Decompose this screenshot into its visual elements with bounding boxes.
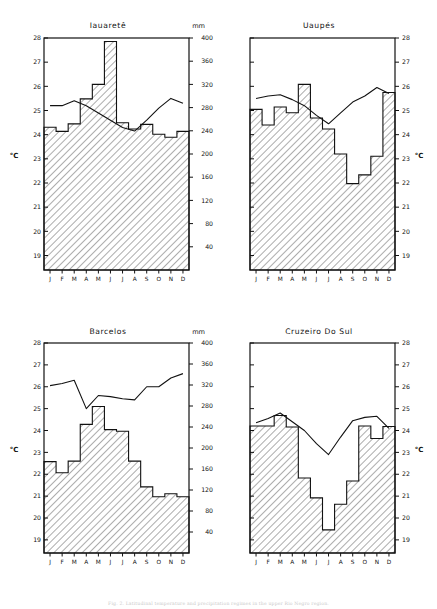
temp-axis-tick-label-right: 25 xyxy=(402,405,410,412)
chart-panel-iauarete: 1920212223242526272840801201602002402803… xyxy=(0,6,219,306)
precip-axis-tick-label: 80 xyxy=(205,507,213,514)
month-label: J xyxy=(48,559,51,566)
temp-axis-tick-label: 23 xyxy=(33,155,41,162)
month-label: M xyxy=(302,559,307,565)
temp-axis-tick-label-right: 27 xyxy=(402,361,410,368)
precip-axis-tick-label: 200 xyxy=(201,444,213,451)
month-label: A xyxy=(290,559,294,565)
month-label: M xyxy=(96,559,101,565)
precip-axis-tick-label: 400 xyxy=(201,34,213,41)
temp-axis-tick-label: 25 xyxy=(33,107,41,114)
month-label: N xyxy=(375,559,379,565)
month-label: J xyxy=(327,276,330,283)
temp-axis-tick-label: 19 xyxy=(33,536,41,543)
temp-axis-tick-label: 27 xyxy=(33,361,41,368)
temp-axis-tick-label: 21 xyxy=(33,492,41,499)
month-label: A xyxy=(339,559,343,565)
precip-axis-tick-label: 280 xyxy=(201,104,213,111)
precip-axis-tick-label: 360 xyxy=(201,360,213,367)
temp-axis-tick-label: 25 xyxy=(33,405,41,412)
chart-svg-barcelos: 1920212223242526272840801201602002402803… xyxy=(0,316,219,588)
temp-axis-tick-label-right: 26 xyxy=(402,383,410,390)
precip-axis-tick-label: 80 xyxy=(205,220,213,227)
month-label: J xyxy=(109,276,112,283)
precip-unit-label: mm xyxy=(192,328,205,336)
precip-axis-tick-label: 120 xyxy=(201,197,213,204)
temperature-unit-label: °C xyxy=(415,152,424,160)
month-label: M xyxy=(302,276,307,282)
month-label: D xyxy=(387,559,392,565)
month-label: M xyxy=(72,276,77,282)
precip-axis-tick-label: 320 xyxy=(201,81,213,88)
month-label: A xyxy=(84,276,88,282)
temp-axis-tick-label-right: 21 xyxy=(402,203,410,210)
chart-panel-cruzeiro-do-sul: 19202122232425262728JFMAMJJASONDCruzeiro… xyxy=(219,316,437,588)
month-label: O xyxy=(363,276,368,282)
month-label: D xyxy=(181,559,186,565)
month-label: J xyxy=(327,559,330,566)
chart-title: Barcelos xyxy=(89,327,126,336)
temp-axis-tick-label: 22 xyxy=(33,470,41,477)
month-label: F xyxy=(60,276,63,282)
month-label: S xyxy=(145,559,149,565)
month-label: S xyxy=(351,559,355,565)
temp-axis-tick-label: 26 xyxy=(33,83,41,90)
month-label: O xyxy=(363,559,368,565)
month-label: J xyxy=(254,276,257,283)
month-label: M xyxy=(96,276,101,282)
precip-axis-tick-label: 240 xyxy=(201,127,213,134)
chart-title: Cruzeiro Do Sul xyxy=(285,327,353,336)
temp-axis-tick-label-right: 24 xyxy=(402,427,410,434)
precip-axis-tick-label: 200 xyxy=(201,150,213,157)
temp-axis-tick-label-right: 24 xyxy=(402,131,410,138)
temp-axis-tick-label-right: 22 xyxy=(402,470,410,477)
temp-axis-tick-label: 22 xyxy=(33,179,41,186)
month-label: O xyxy=(157,276,162,282)
precip-axis-tick-label: 320 xyxy=(201,381,213,388)
month-label: D xyxy=(181,276,186,282)
month-label: F xyxy=(266,559,269,565)
month-label: A xyxy=(133,559,137,565)
precip-axis-tick-label: 280 xyxy=(201,402,213,409)
chart-panel-barcelos: 1920212223242526272840801201602002402803… xyxy=(0,316,219,588)
precip-unit-label: mm xyxy=(192,22,205,30)
temp-axis-tick-label-right: 23 xyxy=(402,449,410,456)
month-label: N xyxy=(169,559,173,565)
temp-axis-tick-label: 21 xyxy=(33,203,41,210)
temp-axis-tick-label-right: 27 xyxy=(402,58,410,65)
month-label: O xyxy=(157,559,162,565)
chart-title: Iauaretê xyxy=(90,21,126,30)
month-label: S xyxy=(351,276,355,282)
month-label: M xyxy=(278,276,283,282)
month-label: N xyxy=(375,276,379,282)
temperature-line xyxy=(50,374,183,409)
temp-axis-tick-label-right: 19 xyxy=(402,252,410,259)
temp-axis-tick-label: 24 xyxy=(33,427,41,434)
month-label: A xyxy=(290,276,294,282)
temperature-unit-label: °C xyxy=(10,152,19,160)
month-label: M xyxy=(72,559,77,565)
temp-axis-tick-label-right: 28 xyxy=(402,34,410,41)
precip-axis-tick-label: 160 xyxy=(201,173,213,180)
chart-svg-cruzeiro-do-sul: 19202122232425262728JFMAMJJASONDCruzeiro… xyxy=(219,316,437,588)
temp-axis-tick-label: 20 xyxy=(33,228,41,235)
precipitation-step-area xyxy=(44,407,189,553)
temp-axis-tick-label-right: 23 xyxy=(402,155,410,162)
temp-axis-tick-label-right: 22 xyxy=(402,179,410,186)
chart-panel-uaupes: 19202122232425262728JFMAMJJASONDUaupés°C xyxy=(219,6,437,306)
precip-axis-tick-label: 120 xyxy=(201,486,213,493)
month-label: J xyxy=(315,559,318,566)
chart-svg-uaupes: 19202122232425262728JFMAMJJASONDUaupés°C xyxy=(219,6,437,306)
temp-axis-tick-label-right: 26 xyxy=(402,83,410,90)
precipitation-step-area xyxy=(250,415,395,553)
figure-caption: Fig. 2. Latitudinal temperature and prec… xyxy=(0,601,437,606)
temperature-unit-label: °C xyxy=(10,446,19,454)
precipitation-step-area xyxy=(250,84,395,270)
precipitation-step-area xyxy=(44,41,189,270)
month-label: D xyxy=(387,276,392,282)
month-label: J xyxy=(254,559,257,566)
month-label: S xyxy=(145,276,149,282)
temp-axis-tick-label: 28 xyxy=(33,339,41,346)
precip-axis-tick-label: 160 xyxy=(201,465,213,472)
month-label: F xyxy=(60,559,63,565)
